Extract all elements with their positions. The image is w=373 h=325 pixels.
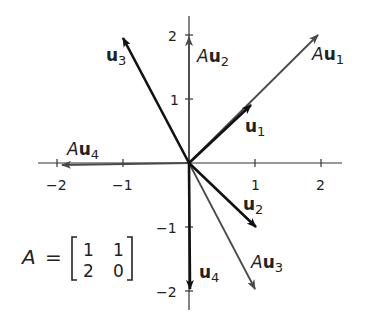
label-u4: u4 [199,262,219,285]
label-u1: u1 [245,116,265,139]
vector-u1 [189,105,251,163]
vector-diagram: −2 −1 1 2 2 1 −1 −2 u1 u2 u3 u4 Au1 Au2 … [0,0,373,325]
matrix-definition: A = 1 1 2 0 [20,237,132,281]
right-bracket [127,237,132,280]
y-tick-label: −2 [156,284,177,300]
x-tick-label: 1 [251,177,260,193]
label-Au3: Au3 [250,252,283,275]
y-tick-label: −1 [156,220,177,236]
vector-u3 [123,38,189,163]
y-tick-label: 2 [168,28,177,44]
label-Au1: Au1 [311,44,344,67]
matrix-entry: 1 [113,240,124,260]
matrix-entry: 0 [113,261,124,281]
matrix-entry: 1 [83,240,94,260]
x-tick-label: −1 [112,177,133,193]
x-tick-label: −2 [46,177,67,193]
label-Au4: Au4 [66,139,99,162]
left-bracket [72,237,77,280]
x-tick-label: 2 [316,177,325,193]
vector-u4 [189,163,190,289]
label-u3: u3 [106,45,126,68]
y-tick-label: 1 [170,92,179,108]
matrix-entry: 2 [83,261,94,281]
matrix-name: A [20,245,36,269]
equals-sign: = [45,245,62,269]
label-Au2: Au2 [196,46,229,69]
label-u2: u2 [243,194,263,217]
